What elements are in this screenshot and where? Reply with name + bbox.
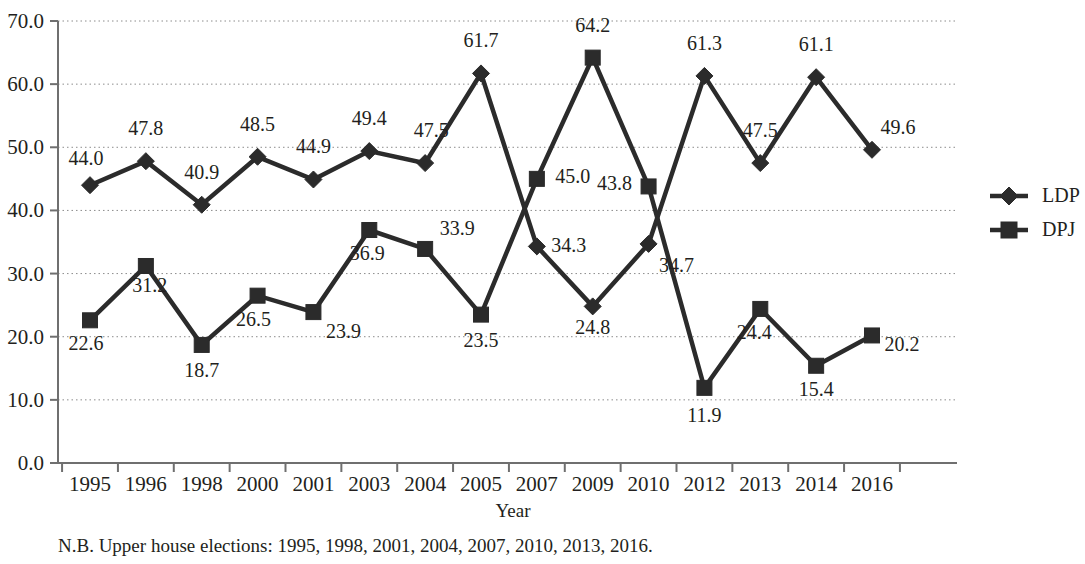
data-point-marker (809, 358, 824, 373)
x-tick-label: 2010 (628, 472, 670, 496)
data-point-label: 45.0 (555, 165, 590, 187)
series-line-ldp (90, 73, 872, 306)
chart-note: N.B. Upper house elections: 1995, 1998, … (58, 535, 653, 556)
x-tick-label: 2014 (795, 472, 838, 496)
data-point-marker (585, 50, 600, 65)
data-point-marker (305, 171, 322, 188)
y-axis-tick-labels: 0.010.020.030.040.050.060.070.0 (7, 9, 44, 475)
data-point-label: 40.9 (184, 161, 219, 183)
x-axis-title: Year (495, 500, 531, 521)
data-point-label: 24.4 (737, 321, 772, 343)
y-tick-label: 0.0 (18, 451, 44, 475)
x-tick-label: 2007 (516, 472, 558, 496)
x-tick-label: 2000 (237, 472, 279, 496)
x-tick-label: 2009 (572, 472, 614, 496)
data-point-label: 36.9 (350, 242, 385, 264)
x-tick-label: 1998 (181, 472, 223, 496)
data-point-marker (697, 380, 712, 395)
data-point-marker (250, 288, 265, 303)
data-point-marker (753, 301, 768, 316)
data-point-label: 49.4 (352, 107, 387, 129)
legend-label-ldp: LDP (1042, 184, 1080, 206)
y-tick-label: 70.0 (7, 9, 44, 33)
data-point-label: 61.3 (687, 32, 722, 54)
data-point-marker (82, 177, 99, 194)
data-point-marker (362, 223, 377, 238)
data-point-marker (194, 337, 209, 352)
data-point-label: 22.6 (69, 332, 104, 354)
x-axis-tick-labels: 1995199619982000200120032004200520072009… (69, 472, 893, 496)
x-tick-label: 2005 (460, 472, 502, 496)
data-point-marker (641, 179, 656, 194)
legend: LDPDPJ (990, 184, 1080, 240)
data-point-marker (529, 171, 544, 186)
data-point-labels: 44.047.840.948.544.949.447.561.734.324.8… (69, 14, 920, 426)
legend-label-dpj: DPJ (1042, 218, 1076, 240)
data-point-label: 24.8 (575, 316, 610, 338)
y-tick-label: 60.0 (7, 72, 44, 96)
x-tick-label: 2001 (292, 472, 334, 496)
data-point-label: 23.9 (326, 320, 361, 342)
y-tick-label: 10.0 (7, 388, 44, 412)
legend-marker-dpj (1001, 222, 1017, 238)
data-point-label: 64.2 (575, 14, 610, 36)
data-point-label: 26.5 (236, 308, 271, 330)
data-point-marker (306, 305, 321, 320)
data-point-marker (138, 258, 153, 273)
data-point-label: 44.9 (296, 135, 331, 157)
line-chart: 0.010.020.030.040.050.060.070.0 19951996… (0, 0, 1085, 564)
x-tick-label: 2004 (404, 472, 447, 496)
x-tick-label: 2003 (348, 472, 390, 496)
chart-figure: 0.010.020.030.040.050.060.070.0 19951996… (0, 0, 1085, 564)
y-tick-label: 30.0 (7, 262, 44, 286)
x-tick-label: 1995 (69, 472, 111, 496)
data-point-label: 48.5 (240, 113, 275, 135)
x-tick-label: 2016 (851, 472, 893, 496)
data-point-label: 43.8 (597, 172, 632, 194)
data-point-label: 61.1 (799, 33, 834, 55)
data-point-label: 34.7 (659, 254, 694, 276)
data-point-label: 47.8 (128, 117, 163, 139)
data-point-label: 11.9 (687, 404, 721, 426)
legend-marker-ldp (1000, 187, 1018, 205)
data-point-marker (361, 143, 378, 160)
y-tick-label: 20.0 (7, 325, 44, 349)
data-point-marker (83, 313, 98, 328)
data-point-label: 49.6 (881, 116, 916, 138)
data-point-marker (474, 307, 489, 322)
x-tick-label: 2012 (683, 472, 725, 496)
y-tick-label: 50.0 (7, 135, 44, 159)
data-point-label: 47.5 (414, 119, 449, 141)
data-point-label: 31.2 (132, 274, 167, 296)
data-point-label: 33.9 (440, 217, 475, 239)
data-point-label: 18.7 (184, 359, 219, 381)
y-tick-label: 40.0 (7, 198, 44, 222)
data-point-label: 23.5 (464, 329, 499, 351)
data-point-label: 34.3 (551, 234, 586, 256)
data-point-marker (865, 328, 880, 343)
data-point-label: 61.7 (464, 29, 499, 51)
data-point-label: 20.2 (885, 333, 920, 355)
data-point-label: 44.0 (69, 147, 104, 169)
data-point-label: 47.5 (743, 119, 778, 141)
x-tick-label: 2013 (739, 472, 781, 496)
axis-ticks (50, 21, 900, 472)
data-point-marker (418, 241, 433, 256)
data-point-label: 15.4 (799, 378, 834, 400)
x-tick-label: 1996 (125, 472, 167, 496)
